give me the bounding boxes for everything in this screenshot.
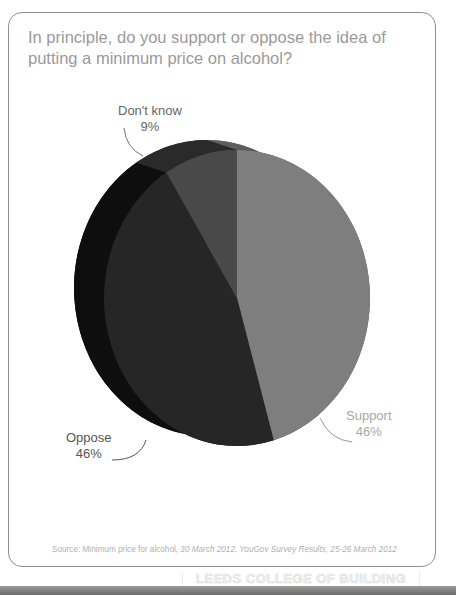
label-oppose-name: Oppose	[66, 430, 112, 446]
source-prefix: Source: Minimum price for alcohol,	[52, 545, 178, 554]
page-edge-band	[0, 586, 456, 595]
pie-chart	[0, 0, 456, 595]
label-support-pct: 46%	[346, 424, 392, 440]
leader-line-oppose	[112, 440, 146, 460]
label-dont-know-name: Don't know	[118, 103, 182, 119]
pie-face-layer	[104, 150, 370, 446]
label-dont-know: Don't know 9%	[118, 103, 182, 135]
source-note: Source: Minimum price for alcohol, 30 Ma…	[52, 545, 397, 554]
library-stamp: LEEDS COLLEGE OF BUILDING	[182, 572, 420, 587]
label-support: Support 46%	[346, 408, 392, 440]
source-details: 30 March 2012. YouGov Survey Results, 25…	[180, 545, 396, 554]
label-oppose-pct: 46%	[66, 446, 112, 462]
label-support-name: Support	[346, 408, 392, 424]
label-oppose: Oppose 46%	[66, 430, 112, 462]
label-dont-know-pct: 9%	[118, 119, 182, 135]
